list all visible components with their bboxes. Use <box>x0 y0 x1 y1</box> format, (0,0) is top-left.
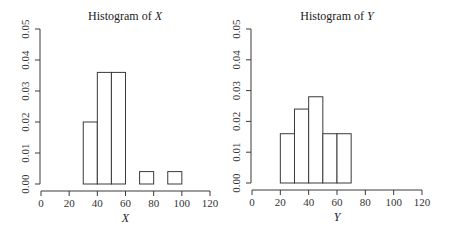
x-axis: 020406080100120 <box>38 191 219 209</box>
histogram-bar <box>280 134 294 183</box>
chart-title: Histogram of X <box>88 9 163 23</box>
x-tick-label: 80 <box>148 197 160 209</box>
histogram-bars <box>280 97 351 183</box>
y-tick-label: 0.03 <box>230 80 242 100</box>
x-tick-label: 80 <box>360 196 372 208</box>
x-tick-label: 40 <box>92 197 104 209</box>
x-tick-label: 60 <box>120 197 132 209</box>
x-axis-label: Y <box>334 210 342 224</box>
x-tick-label: 0 <box>249 196 255 208</box>
y-tick-label: 0.05 <box>19 19 31 39</box>
y-tick-label: 0.00 <box>19 174 31 194</box>
histogram-bar <box>323 134 337 183</box>
x-tick-label: 40 <box>303 196 315 208</box>
y-tick-label: 0.05 <box>230 19 242 39</box>
y-tick-label: 0.01 <box>230 143 242 162</box>
y-tick-label: 0.04 <box>19 50 31 70</box>
histogram-bar <box>168 172 182 184</box>
x-axis-label: X <box>121 211 130 225</box>
x-axis: 020406080100120 <box>249 190 431 208</box>
x-tick-label: 60 <box>332 196 344 208</box>
histogram-bar <box>337 134 351 183</box>
chart-title: Histogram of Y <box>300 9 375 23</box>
histogram-bar <box>295 109 309 183</box>
x-tick-label: 0 <box>38 197 44 209</box>
y-tick-label: 0.03 <box>19 81 31 101</box>
histogram-bar <box>140 172 154 184</box>
histogram-x-panel: Histogram of X0.000.010.020.030.040.0502… <box>19 9 219 225</box>
histogram-bar <box>111 72 125 184</box>
x-tick-label: 120 <box>414 196 431 208</box>
y-tick-label: 0.00 <box>230 173 242 193</box>
figure: Histogram of X0.000.010.020.030.040.0502… <box>0 0 450 231</box>
x-tick-label: 120 <box>202 197 219 209</box>
y-tick-label: 0.02 <box>19 112 31 131</box>
y-tick-label: 0.01 <box>19 143 31 162</box>
y-tick-label: 0.04 <box>230 50 242 70</box>
x-tick-label: 100 <box>385 196 402 208</box>
histogram-bar <box>83 122 97 184</box>
histogram-bars <box>83 72 182 184</box>
x-tick-label: 100 <box>174 197 191 209</box>
histogram-bar <box>309 97 323 183</box>
histogram-bar <box>97 72 111 184</box>
x-tick-label: 20 <box>275 196 287 208</box>
y-axis: 0.000.010.020.030.040.05 <box>19 19 40 194</box>
x-tick-label: 20 <box>64 197 76 209</box>
histogram-y-panel: Histogram of Y0.000.010.020.030.040.0502… <box>230 9 431 224</box>
y-axis: 0.000.010.020.030.040.05 <box>230 19 251 193</box>
y-tick-label: 0.02 <box>230 112 242 131</box>
